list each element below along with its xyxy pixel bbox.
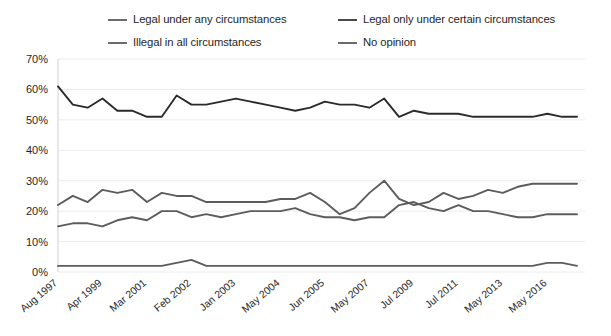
y-axis-tick-label: 10%: [26, 236, 48, 248]
x-axis-tick-label: May 2007: [329, 277, 371, 315]
x-axis-tick-label: Apr 1999: [64, 277, 104, 313]
x-axis-tick-label: May 2016: [507, 277, 549, 315]
x-axis-tick-label: Jul 2011: [423, 277, 460, 310]
series-line-illegal-in-all-circumstances: [58, 202, 577, 226]
x-axis-tick-label: May 2013: [462, 277, 504, 315]
x-axis-tick-label: May 2004: [240, 277, 282, 315]
series-line-legal-under-any-circumstances: [58, 181, 577, 214]
chart-container: Legal under any circumstances Legal only…: [0, 0, 611, 336]
y-axis-tick-label: 30%: [26, 175, 48, 187]
y-axis-tick-label: 20%: [26, 205, 48, 217]
data-series: [58, 86, 577, 266]
y-axis-tick-label: 60%: [26, 83, 48, 95]
gridlines: [58, 59, 585, 272]
x-axis-tick-label: Jan 2003: [197, 277, 237, 313]
x-axis-tick-label: Aug 1997: [18, 277, 59, 314]
y-axis-tick-label: 0%: [32, 266, 48, 278]
y-axis-tick-label: 70%: [26, 53, 48, 65]
x-axis-tick-label: Jul 2009: [378, 277, 415, 311]
x-axis-tick-label: Jun 2005: [286, 277, 326, 313]
y-axis-tick-label: 50%: [26, 114, 48, 126]
x-axis-labels: Aug 1997Apr 1999Mar 2001Feb 2002Jan 2003…: [18, 277, 549, 315]
x-axis-tick-label: Feb 2002: [152, 277, 193, 314]
y-axis-labels: 0%10%20%30%40%50%60%70%: [26, 53, 48, 278]
x-axis-tick-label: Mar 2001: [108, 277, 149, 314]
series-line-no-opinion: [58, 260, 577, 266]
y-axis-tick-label: 40%: [26, 144, 48, 156]
line-chart-plot: 0%10%20%30%40%50%60%70% Aug 1997Apr 1999…: [0, 0, 611, 336]
series-line-legal-only-under-certain-circumstances: [58, 86, 577, 116]
